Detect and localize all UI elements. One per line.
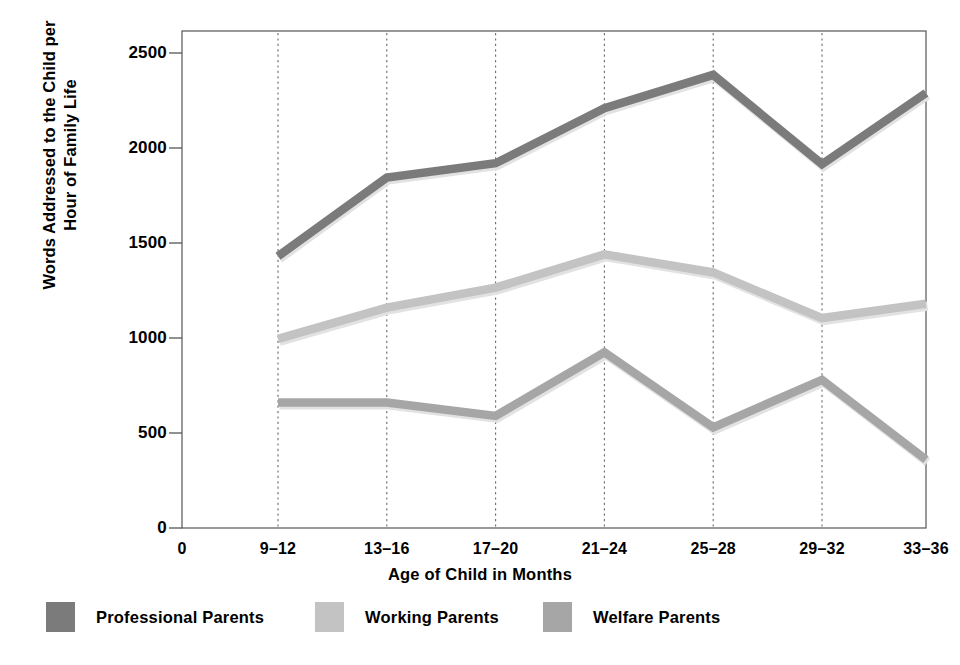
legend-swatch-icon xyxy=(46,602,75,632)
legend-label: Working Parents xyxy=(365,608,499,627)
series-shadow-welfare-parents xyxy=(280,355,928,462)
chart-figure: Words Addressed to the Child per Hour of… xyxy=(0,0,960,665)
legend-swatch-icon xyxy=(315,602,344,632)
legend-label: Professional Parents xyxy=(96,608,264,627)
y-tick-label-1500: 1500 xyxy=(95,233,167,253)
legend-label: Welfare Parents xyxy=(593,608,720,627)
y-tick-label-1000: 1000 xyxy=(95,328,167,348)
legend-item-working-parents: Working Parents xyxy=(315,600,499,634)
series-shadow-working-parents xyxy=(280,257,928,342)
series-line-working-parents xyxy=(278,254,926,339)
y-tick-label-0: 0 xyxy=(95,518,167,538)
y-tick-label-2500: 2500 xyxy=(95,43,167,63)
x-tick-label-0: 0 xyxy=(177,540,186,558)
x-tick-label-2932: 29–32 xyxy=(799,540,845,558)
legend-item-welfare-parents: Welfare Parents xyxy=(543,600,720,634)
x-tick-label-3336: 33–36 xyxy=(903,540,949,558)
x-tick-label-2528: 25–28 xyxy=(690,540,736,558)
legend-swatch-icon xyxy=(543,602,572,632)
plot-frame xyxy=(182,31,926,528)
x-tick-label-912: 9–12 xyxy=(260,540,296,558)
y-tick-label-2000: 2000 xyxy=(95,138,167,158)
y-tick-label-500: 500 xyxy=(95,423,167,443)
chart-legend: Professional ParentsWorking ParentsWelfa… xyxy=(0,600,960,640)
x-tick-label-2124: 21–24 xyxy=(582,540,628,558)
x-axis-title: Age of Child in Months xyxy=(0,565,960,584)
x-tick-label-1316: 13–16 xyxy=(364,540,410,558)
x-tick-label-1720: 17–20 xyxy=(473,540,519,558)
legend-item-professional-parents: Professional Parents xyxy=(46,600,264,634)
series-line-welfare-parents xyxy=(278,352,926,459)
